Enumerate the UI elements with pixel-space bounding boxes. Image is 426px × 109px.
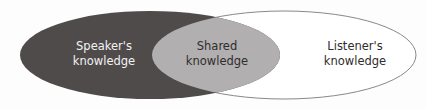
shared-label: Shared knowledge [165, 39, 269, 69]
listener-label: Listener's knowledge [303, 39, 407, 69]
speaker-label: Speaker's knowledge [52, 39, 156, 69]
